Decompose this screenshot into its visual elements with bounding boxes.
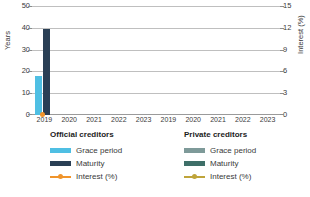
panel-private-creditors xyxy=(156,6,280,115)
legend-item-private-maturity[interactable]: Maturity xyxy=(184,157,310,170)
x-tick-private-0: 2019 xyxy=(156,116,181,123)
x-tick-official-1: 2020 xyxy=(57,116,82,123)
legend-area: Official creditors Grace period Maturity… xyxy=(0,130,310,197)
category-group-2023 xyxy=(131,6,156,115)
bar-group-2019 xyxy=(32,6,57,115)
category-group-private-2021 xyxy=(206,6,231,115)
legend-title-official: Official creditors xyxy=(50,130,176,139)
legend-official-creditors: Official creditors Grace period Maturity… xyxy=(26,130,176,183)
category-group-private-2019 xyxy=(156,6,181,115)
legend-item-official-grace[interactable]: Grace period xyxy=(50,144,176,157)
y-axis-left: 50 40 30 20 10 0 xyxy=(6,6,30,115)
category-group-2020 xyxy=(57,6,82,115)
legend-label-official-interest: Interest (%) xyxy=(76,172,117,181)
tickmark-right-0 xyxy=(280,114,284,115)
legend-swatch-grace-period-private-icon xyxy=(184,148,205,153)
x-tick-private-1: 2020 xyxy=(181,116,206,123)
tickmark-right-3 xyxy=(280,93,284,94)
legend-item-official-interest[interactable]: Interest (%) xyxy=(50,170,176,183)
legend-label-private-grace: Grace period xyxy=(210,146,256,155)
y-tick-right-0: 15 xyxy=(283,2,291,10)
tickmark-right-15 xyxy=(280,6,284,7)
x-tick-official-3: 2022 xyxy=(106,116,131,123)
legend-swatch-maturity-icon xyxy=(50,161,71,166)
bar-grace-period-2019[interactable] xyxy=(35,76,42,115)
legend-line-marker-interest-icon xyxy=(50,173,71,180)
category-group-private-2022 xyxy=(230,6,255,115)
legend-line-marker-interest-private-icon xyxy=(184,173,205,180)
tickmark-right-6 xyxy=(280,71,284,72)
category-group-2019 xyxy=(32,6,57,115)
legend-swatch-maturity-private-icon xyxy=(184,161,205,166)
x-axis-private: 2019 2020 2021 2022 2023 xyxy=(156,116,280,126)
legend-label-official-grace: Grace period xyxy=(76,146,122,155)
tickmark-right-12 xyxy=(280,28,284,29)
legend-label-official-maturity: Maturity xyxy=(76,159,104,168)
x-tick-official-0: 2019 xyxy=(32,116,57,123)
y-axis-right: 15 12 9 6 3 0 xyxy=(283,6,303,115)
x-tick-private-4: 2023 xyxy=(255,116,280,123)
plot-area: Years Interest (%) 50 40 30 20 10 0 15 1… xyxy=(0,0,310,130)
category-group-private-2023 xyxy=(255,6,280,115)
legend-item-official-maturity[interactable]: Maturity xyxy=(50,157,176,170)
x-tick-private-2: 2021 xyxy=(206,116,231,123)
x-tick-official-4: 2023 xyxy=(131,116,156,123)
legend-swatch-grace-period-icon xyxy=(50,148,71,153)
legend-title-private: Private creditors xyxy=(184,130,310,139)
category-group-2021 xyxy=(82,6,107,115)
chart-figure: Years Interest (%) 50 40 30 20 10 0 15 1… xyxy=(0,0,310,197)
legend-item-private-grace[interactable]: Grace period xyxy=(184,144,310,157)
tickmark-right-9 xyxy=(280,50,284,51)
bar-maturity-2019[interactable] xyxy=(43,29,50,115)
legend-label-private-interest: Interest (%) xyxy=(210,172,251,181)
x-axis-official: 2019 2020 2021 2022 2023 xyxy=(32,116,156,126)
legend-label-private-maturity: Maturity xyxy=(210,159,238,168)
x-tick-official-2: 2021 xyxy=(82,116,107,123)
category-group-2022 xyxy=(106,6,131,115)
category-group-private-2020 xyxy=(181,6,206,115)
legend-item-private-interest[interactable]: Interest (%) xyxy=(184,170,310,183)
x-tick-private-3: 2022 xyxy=(230,116,255,123)
legend-private-creditors: Private creditors Grace period Maturity … xyxy=(160,130,310,183)
panel-official-creditors xyxy=(32,6,156,115)
y-tick-right-1: 12 xyxy=(283,24,291,32)
